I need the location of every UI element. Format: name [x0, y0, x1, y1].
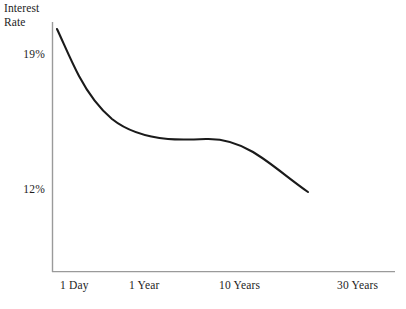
chart-plot-area [0, 0, 406, 309]
yield-curve-line [57, 29, 308, 192]
y-axis-tick-label: 12% [0, 183, 45, 195]
x-axis-tick-label: 10 Years [219, 279, 260, 291]
x-axis-tick-label: 1 Day [60, 279, 89, 291]
x-axis-tick-label: 1 Year [129, 279, 160, 291]
x-axis-tick-label: 30 Years [337, 279, 378, 291]
y-axis-tick-label: 19% [0, 48, 45, 60]
yield-curve-chart: Interest Rate 19% 12% 1 Day 1 Year 10 Ye… [0, 0, 406, 309]
y-axis-title: Interest Rate [4, 2, 39, 29]
